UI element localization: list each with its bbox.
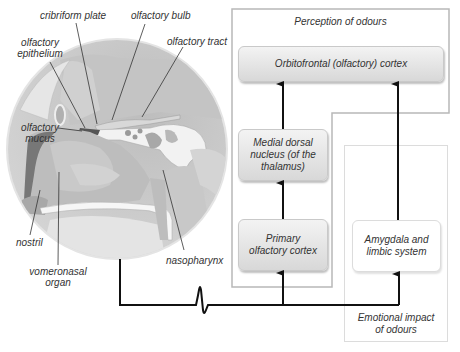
signal-pathway-lines bbox=[0, 0, 460, 352]
nerve-signal-line bbox=[120, 259, 399, 313]
